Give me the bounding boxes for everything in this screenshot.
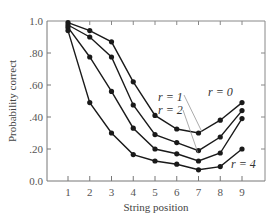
x-tick-label: 6 <box>174 186 180 198</box>
data-point <box>65 28 70 33</box>
data-point <box>152 146 157 151</box>
y-axis-ticks: 0.0.20.40.60.801.0 <box>29 15 265 187</box>
series-label-r4: r = 4 <box>231 157 256 171</box>
data-point <box>239 108 244 113</box>
x-tick-label: 9 <box>239 186 245 198</box>
y-tick-label: .20 <box>29 143 43 155</box>
data-point <box>131 126 136 131</box>
data-point <box>87 54 92 59</box>
data-point <box>239 116 244 121</box>
series-label-r2: r = 2 <box>158 103 183 117</box>
x-tick-label: 8 <box>218 186 224 198</box>
data-point <box>131 79 136 84</box>
y-axis-title: Probability correct <box>6 60 18 142</box>
leader-line-r1 <box>184 95 202 132</box>
data-point <box>174 140 179 145</box>
data-point <box>239 100 244 105</box>
data-point <box>152 113 157 118</box>
series-label-r0: r = 0 <box>208 85 233 99</box>
y-tick-label: .60 <box>29 79 43 91</box>
data-point <box>174 162 179 167</box>
data-point <box>87 28 92 33</box>
data-point <box>131 102 136 107</box>
data-point <box>174 151 179 156</box>
line-chart: 0.0.20.40.60.801.0 123456789 r = 0 r = 1… <box>0 0 277 224</box>
x-axis-ticks: 123456789 <box>65 21 245 198</box>
data-point <box>109 54 114 59</box>
data-point <box>196 167 201 172</box>
x-tick-label: 2 <box>87 186 93 198</box>
data-point <box>152 158 157 163</box>
data-point <box>152 132 157 137</box>
y-tick-label: 0.0 <box>29 175 43 187</box>
y-tick-label: .40 <box>29 111 43 123</box>
x-tick-label: 5 <box>152 186 158 198</box>
data-point <box>131 152 136 157</box>
x-tick-label: 4 <box>131 186 137 198</box>
data-point <box>196 158 201 163</box>
x-tick-label: 1 <box>65 186 71 198</box>
data-point <box>218 134 223 139</box>
x-tick-label: 7 <box>196 186 202 198</box>
x-tick-label: 3 <box>109 186 115 198</box>
series-label-r1: r = 1 <box>158 90 183 104</box>
data-point <box>218 164 223 169</box>
data-point <box>239 146 244 151</box>
data-point <box>109 89 114 94</box>
data-point <box>196 130 201 135</box>
data-point <box>87 100 92 105</box>
data-point <box>218 118 223 123</box>
y-tick-label: 1.0 <box>29 15 43 27</box>
data-point <box>174 126 179 131</box>
data-point <box>87 34 92 39</box>
x-axis-title: String position <box>123 201 189 213</box>
y-tick-label: .80 <box>29 47 43 59</box>
data-point <box>218 150 223 155</box>
data-point <box>109 130 114 135</box>
data-point <box>109 39 114 44</box>
leader-line-r2 <box>183 110 198 153</box>
